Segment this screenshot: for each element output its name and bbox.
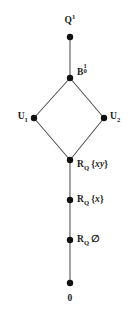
lattice-edge — [34, 118, 70, 160]
node-label: RQ {x} — [77, 195, 104, 206]
lattice-node — [67, 237, 73, 243]
node-label: Q1 — [65, 14, 76, 26]
node-label: RQ {xy} — [77, 160, 108, 171]
node-label: U1 — [18, 112, 28, 123]
lattice-node — [67, 280, 73, 286]
lattice-node — [31, 115, 37, 121]
lattice-node — [67, 157, 73, 163]
lattice-node — [67, 34, 73, 40]
lattice-edge — [34, 78, 70, 118]
lattice-node — [67, 75, 73, 81]
lattice-edge — [70, 118, 104, 160]
hasse-diagram: Q1B10U1U2RQ {xy}RQ {x}RQ ∅0 — [0, 0, 137, 315]
node-label: 0 — [68, 294, 73, 304]
node-label: U2 — [110, 112, 120, 123]
node-label: B10 — [77, 65, 87, 77]
lattice-graph — [0, 0, 137, 315]
lattice-edge — [70, 78, 104, 118]
node-label: RQ ∅ — [77, 235, 100, 246]
lattice-node — [67, 197, 73, 203]
lattice-node — [101, 115, 107, 121]
